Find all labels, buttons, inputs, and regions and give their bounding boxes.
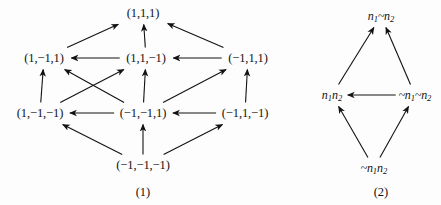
node-n1m1m1: (1,−1,−1) xyxy=(17,107,64,120)
diagram-1-caption: (1) xyxy=(136,185,151,200)
node-left: n1n2 xyxy=(322,89,342,101)
edge-nm1m1m1-to-n1m1m1 xyxy=(63,125,122,155)
diagram-1-panel: (1,1,1)(1,−1,1)(1,1,−1)(−1,1,1)(1,−1,−1)… xyxy=(0,0,290,205)
node-n11m1: (1,1,−1) xyxy=(126,52,166,65)
edge-left-to-top xyxy=(339,28,374,85)
node-bottom: ~n1n2 xyxy=(361,162,388,174)
node-nm1m1m1: (−1,−1,−1) xyxy=(116,159,169,172)
lattice-figure: (1,1,1)(1,−1,1)(1,1,−1)(−1,1,1)(1,−1,−1)… xyxy=(0,0,441,205)
diagram-2-caption: (2) xyxy=(374,185,389,200)
node-nm1m11: (−1,−1,1) xyxy=(120,107,167,120)
edge-nm11m1-to-nm111 xyxy=(246,70,248,103)
node-nm111: (−1,1,1) xyxy=(228,52,268,65)
edge-nm1m11-to-n11m1 xyxy=(144,70,146,103)
edge-right-to-top xyxy=(386,28,411,85)
edge-n1m1m1-to-n1m11 xyxy=(41,70,43,103)
node-nm11m1: (−1,1,−1) xyxy=(222,107,269,120)
edge-nm1m1m1-to-nm11m1 xyxy=(164,125,223,155)
edge-n1m11-to-n111 xyxy=(67,24,118,47)
node-n1m11: (1,−1,1) xyxy=(24,52,64,65)
edge-n11m1-to-n111 xyxy=(144,25,146,48)
diagram-1-edges xyxy=(0,0,290,205)
diagram-2-panel: n1~n2n1n2~n1~n2~n1n2 (2) xyxy=(290,0,441,205)
edge-nm111-to-n111 xyxy=(168,24,224,48)
node-n111: (1,1,1) xyxy=(127,7,160,20)
node-right: ~n1~n2 xyxy=(399,89,432,101)
edge-bottom-to-left xyxy=(339,107,368,158)
edge-nm1m11-to-nm111 xyxy=(163,70,226,103)
edge-bottom-to-right xyxy=(380,107,409,158)
node-top: n1~n2 xyxy=(368,10,395,22)
